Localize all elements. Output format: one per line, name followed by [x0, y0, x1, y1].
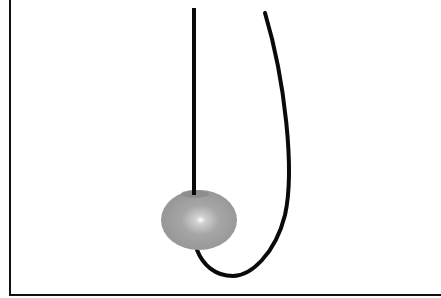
diagram-canvas — [0, 0, 441, 298]
bead — [161, 190, 237, 250]
background — [0, 0, 441, 298]
bead-on-string-diagram — [0, 0, 441, 298]
